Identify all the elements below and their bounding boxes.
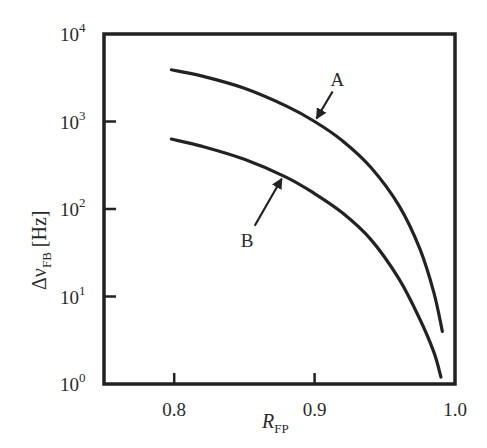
- annotation-a: A: [331, 69, 345, 90]
- curve-b: [171, 139, 441, 377]
- data-curves: [171, 70, 442, 377]
- y-tick-label: 102: [60, 195, 86, 220]
- x-tick-label: 0.8: [162, 399, 186, 420]
- y-tick-label: 101: [60, 283, 86, 308]
- curve-a: [171, 70, 442, 332]
- y-axis-label: ΔνFB [Hz]: [28, 211, 54, 290]
- arrow-b-icon: [255, 179, 282, 226]
- arrow-a-icon: [317, 92, 333, 119]
- curve-annotations: AB: [241, 69, 345, 251]
- x-tick-label: 0.9: [303, 399, 327, 420]
- y-tick-label: 104: [60, 20, 86, 45]
- x-tick-label: 1.0: [443, 399, 467, 420]
- x-axis-label: RFP: [261, 410, 289, 436]
- chart: AB 0.80.91.0 100101102103104 RFP ΔνFB [H…: [0, 0, 487, 448]
- x-axis-ticks: 0.80.91.0: [162, 373, 467, 420]
- annotation-b: B: [241, 230, 254, 251]
- y-tick-label: 100: [60, 370, 86, 395]
- y-axis-ticks: 100101102103104: [60, 20, 116, 395]
- y-tick-label: 103: [60, 108, 86, 133]
